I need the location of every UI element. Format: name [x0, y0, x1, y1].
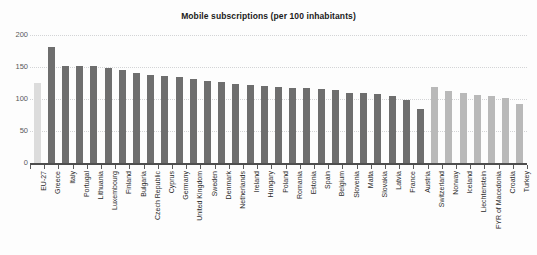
- x-tick-label-spain: Spain: [324, 171, 331, 189]
- x-tick: [399, 165, 400, 169]
- bar-slot: [314, 35, 328, 163]
- bar-slot: [342, 35, 356, 163]
- x-tick: [456, 165, 457, 169]
- x-tick-label-lithuania: Lithuania: [97, 171, 104, 199]
- x-tick-label-norway: Norway: [452, 171, 459, 195]
- bar-slot: [470, 35, 484, 163]
- x-tick-label-estonia: Estonia: [310, 171, 317, 194]
- bar-slot: [144, 35, 158, 163]
- bar-slot: [73, 35, 87, 163]
- bar-slot: [257, 35, 271, 163]
- x-tick: [428, 165, 429, 169]
- bar-slot: [300, 35, 314, 163]
- y-tick-label-50: 50: [2, 126, 28, 135]
- bar-portugal: [76, 66, 83, 163]
- x-tick-label-finland: Finland: [125, 171, 132, 194]
- x-tick: [499, 165, 500, 169]
- bar-slot: [456, 35, 470, 163]
- clipped-header-text: [0, 0, 537, 6]
- bar-liechtenstein: [474, 95, 481, 163]
- bar-slot: [158, 35, 172, 163]
- x-tick-label-liechtenstein: Liechtenstein: [480, 171, 487, 212]
- bar-slot: [229, 35, 243, 163]
- x-tick-label-malta: Malta: [367, 171, 374, 188]
- bar-norway: [445, 91, 452, 163]
- bar-slovenia: [346, 93, 353, 163]
- x-tick-label-latvia: Latvia: [395, 171, 402, 190]
- x-tick-label-sweden: Sweden: [211, 171, 218, 196]
- bar-finland: [119, 70, 126, 163]
- x-tick-label-belgium: Belgium: [338, 171, 345, 196]
- bar-malta: [360, 93, 367, 163]
- bar-slot: [58, 35, 72, 163]
- bar-slot: [385, 35, 399, 163]
- x-tick-label-germany: Germany: [182, 171, 189, 200]
- y-tick-label-200: 200: [2, 30, 28, 39]
- bar-lithuania: [90, 66, 97, 163]
- x-tick-label-ireland: Ireland: [253, 171, 260, 192]
- x-tick: [200, 165, 201, 169]
- chart-container: Mobile subscriptions (per 100 inhabitant…: [0, 0, 537, 255]
- x-tick: [101, 165, 102, 169]
- bar-slot: [286, 35, 300, 163]
- bar-slot: [442, 35, 456, 163]
- bar-netherlands: [232, 84, 239, 163]
- x-tick-label-luxembourg: Luxembourg: [111, 171, 118, 210]
- bar-slot: [243, 35, 257, 163]
- bar-latvia: [389, 96, 396, 163]
- x-tick: [58, 165, 59, 169]
- bar-luxembourg: [105, 68, 112, 163]
- bar-austria: [417, 109, 424, 163]
- x-tick: [300, 165, 301, 169]
- x-tick: [328, 165, 329, 169]
- bar-slot: [101, 35, 115, 163]
- bar-slot: [87, 35, 101, 163]
- x-tick: [172, 165, 173, 169]
- bar-poland: [275, 87, 282, 163]
- x-tick: [243, 165, 244, 169]
- x-tick-label-eu-27: EU-27: [40, 171, 47, 191]
- bar-croatia: [502, 98, 509, 163]
- x-tick: [413, 165, 414, 169]
- x-tick: [158, 165, 159, 169]
- x-tick-label-greece: Greece: [54, 171, 61, 194]
- bar-slot: [428, 35, 442, 163]
- x-tick: [144, 165, 145, 169]
- bar-bulgaria: [133, 73, 140, 163]
- bar-czech-republic: [147, 75, 154, 163]
- bar-slovakia: [374, 94, 381, 163]
- bar-slot: [413, 35, 427, 163]
- bar-slot: [399, 35, 413, 163]
- x-tick-label-poland: Poland: [282, 171, 289, 193]
- x-tick: [385, 165, 386, 169]
- bar-slot: [200, 35, 214, 163]
- x-tick: [286, 165, 287, 169]
- x-tick: [442, 165, 443, 169]
- bar-slot: [129, 35, 143, 163]
- x-tick-label-united-kingdom: United Kingdom: [196, 171, 203, 221]
- x-tick-label-austria: Austria: [424, 171, 431, 193]
- bar-greece: [48, 47, 55, 163]
- bar-cyprus: [161, 76, 168, 163]
- x-tick: [271, 165, 272, 169]
- x-tick: [357, 165, 358, 169]
- x-tick-label-denmark: Denmark: [225, 171, 232, 199]
- x-tick-label-iceland: Iceland: [466, 171, 473, 194]
- bar-slot: [215, 35, 229, 163]
- bar-slot: [499, 35, 513, 163]
- x-tick-label-portugal: Portugal: [83, 171, 90, 197]
- bar-slot: [328, 35, 342, 163]
- x-tick: [484, 165, 485, 169]
- bar-slot: [357, 35, 371, 163]
- x-tick: [30, 165, 31, 169]
- x-tick-label-switzerland: Switzerland: [438, 171, 445, 207]
- bar-slot: [186, 35, 200, 163]
- x-tick-label-france: France: [409, 171, 416, 193]
- bar-slot: [371, 35, 385, 163]
- x-tick: [215, 165, 216, 169]
- bar-hungary: [261, 86, 268, 163]
- x-tick-label-slovenia: Slovenia: [353, 171, 360, 198]
- bar-slot: [115, 35, 129, 163]
- x-tick-label-fyr-of-macedonia: FYR of Macedonia: [495, 171, 502, 229]
- x-tick: [186, 165, 187, 169]
